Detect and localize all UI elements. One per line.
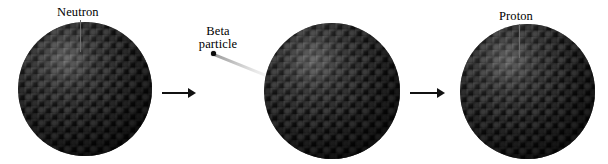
proton-label: Proton (499, 10, 533, 23)
proton-leader-line (519, 24, 520, 58)
nucleus-during (264, 23, 400, 159)
arrow-shaft (162, 92, 189, 94)
beta-decay-figure: Neutron Beta particle Proton (0, 0, 608, 164)
process-arrow-1 (162, 88, 196, 98)
arrow-head (188, 88, 196, 98)
nucleus-shading (18, 22, 152, 156)
process-arrow-2 (410, 88, 445, 98)
neutron-label: Neutron (57, 6, 99, 19)
nucleus-after (460, 24, 595, 159)
arrow-shaft (410, 92, 438, 94)
neutron-leader-line (80, 20, 81, 52)
beta-particle-dot (211, 51, 216, 56)
nucleus-shading (460, 24, 595, 159)
arrow-head (437, 88, 445, 98)
nucleus-before (18, 22, 152, 156)
nucleus-shading (264, 23, 400, 159)
beta-particle-label-line2: particle (188, 38, 248, 51)
